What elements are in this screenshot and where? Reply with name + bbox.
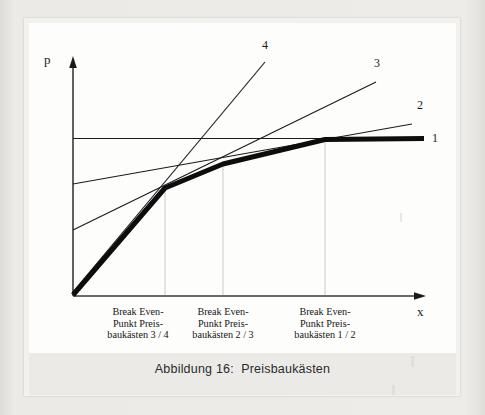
- break-even-label-3-4: Break Even- Punkt Preis- baukästen 3 / 4: [96, 306, 180, 341]
- price-ladder-chart: [0, 0, 485, 415]
- x-axis-arrow: [414, 292, 426, 300]
- price-lines: [73, 62, 424, 292]
- axes: [69, 56, 426, 300]
- y-axis-label: p: [44, 52, 51, 68]
- x-axis-label: x: [417, 304, 424, 320]
- price-line-2: [73, 124, 412, 184]
- scan-speck: [400, 213, 402, 222]
- envelope-curve: [73, 139, 424, 296]
- price-line-1-label: 1: [432, 131, 438, 146]
- break-even-label-2-3: Break Even- Punkt Preis- baukästen 2 / 3: [181, 306, 265, 341]
- price-line-4-label: 4: [262, 38, 268, 53]
- price-line-3: [73, 82, 376, 230]
- break-even-label-1-2: Break Even- Punkt Preis- baukästen 1 / 2: [283, 306, 367, 341]
- scan-speck: [392, 385, 395, 395]
- price-line-3-label: 3: [374, 56, 380, 71]
- figure-page: p x 4 3 2 1 Break Even- Punkt Preis- bau…: [0, 0, 485, 415]
- scan-speck: [411, 356, 414, 367]
- figure-caption: Abbildung 16: Preisbaukästen: [29, 362, 456, 376]
- price-line-2-label: 2: [417, 98, 423, 113]
- price-line-4: [73, 62, 265, 292]
- y-axis-arrow: [69, 56, 77, 68]
